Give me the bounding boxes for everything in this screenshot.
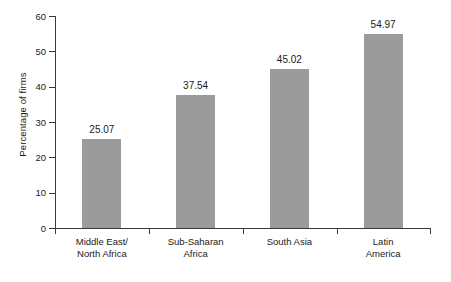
bar-south-asia — [270, 69, 309, 228]
x-category-label-line: America — [328, 248, 438, 260]
x-tick-mark-1 — [149, 229, 150, 234]
x-category-label-line: Latin — [328, 236, 438, 248]
bar-value-label-2: 45.02 — [259, 55, 319, 65]
x-category-label-3: LatinAmerica — [328, 236, 438, 259]
y-tick-label-10: 10 — [22, 188, 46, 198]
y-tick-label-20: 20 — [22, 153, 46, 163]
y-tick-label-0: 0 — [22, 224, 46, 234]
plot-area — [55, 16, 430, 228]
y-tick-label-60: 60 — [22, 12, 46, 22]
x-tick-mark-3 — [337, 229, 338, 234]
x-category-label-line: Africa — [141, 248, 251, 260]
y-tick-label-40: 40 — [22, 82, 46, 92]
bar-middle-east-north-africa — [82, 139, 121, 228]
x-tick-mark-4 — [430, 229, 431, 234]
x-tick-mark-2 — [243, 229, 244, 234]
y-tick-label-50: 50 — [22, 47, 46, 57]
bar-value-label-3: 54.97 — [353, 20, 413, 30]
bar-value-label-1: 37.54 — [166, 81, 226, 91]
bar-chart: Percentage of firms 60 50 40 30 20 10 0 … — [0, 0, 451, 282]
x-tick-mark-0 — [55, 229, 56, 234]
bar-latin-america — [364, 34, 403, 228]
bar-value-label-0: 25.07 — [72, 125, 132, 135]
y-tick-label-30: 30 — [22, 118, 46, 128]
bar-sub-saharan-africa — [176, 95, 215, 228]
